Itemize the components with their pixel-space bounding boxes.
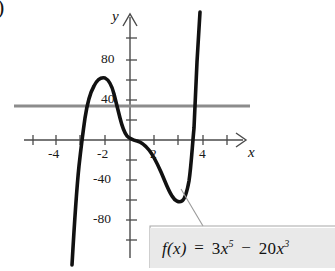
y-tick-label-80: 80 bbox=[101, 51, 115, 67]
formula-term1-exponent: 5 bbox=[228, 238, 233, 249]
y-tick-label-minus40: -40 bbox=[93, 171, 111, 187]
formula-lhs: f(x) bbox=[162, 238, 187, 257]
y-tick-label-minus80: -80 bbox=[93, 211, 111, 227]
x-tick-label-4: 4 bbox=[199, 146, 206, 162]
formula-minus: − bbox=[238, 238, 254, 257]
callout-leader-line bbox=[181, 189, 203, 226]
graph-figure: ) bbox=[0, 0, 335, 271]
x-tick-label-minus4: -4 bbox=[48, 146, 59, 162]
y-tick-label-40: 40 bbox=[101, 91, 115, 107]
formula-term1-coeff: 3 bbox=[212, 238, 221, 257]
formula-term2-exponent: 3 bbox=[284, 238, 289, 249]
x-tick-label-2: 2 bbox=[150, 146, 157, 162]
formula-term2-coeff: 20 bbox=[259, 238, 277, 257]
formula-text: f(x) = 3x5 − 20x3 bbox=[162, 238, 290, 259]
x-axis-label: x bbox=[248, 144, 255, 161]
formula-equals: = bbox=[191, 238, 207, 257]
y-axis-label: y bbox=[112, 8, 119, 25]
formula-callout-box: f(x) = 3x5 − 20x3 bbox=[150, 228, 335, 268]
x-tick-label-minus2: -2 bbox=[97, 146, 108, 162]
